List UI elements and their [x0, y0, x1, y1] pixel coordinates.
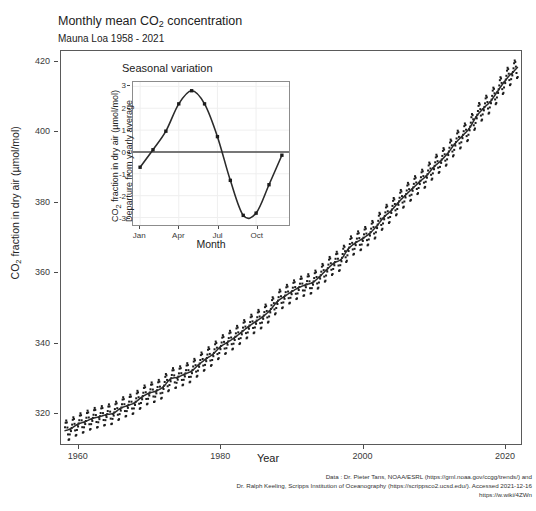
main-x-tick-mark [363, 445, 364, 449]
main-y-tick-label: 420 [35, 56, 50, 66]
main-y-tick-label: 360 [35, 267, 50, 277]
inset-y-tick-label: 3 [122, 81, 126, 90]
page-subtitle: Mauna Loa 1958 - 2021 [58, 33, 164, 44]
main-y-tick-label: 320 [35, 408, 50, 418]
footer-line-2: Dr. Ralph Keeling, Scripps Institution o… [0, 482, 532, 491]
page-title-suffix: concentration [164, 14, 243, 28]
main-y-tick-label: 380 [35, 197, 50, 207]
inset-title: Seasonal variation [122, 62, 213, 74]
inset-y-axis-title-line2: Departure from yearly average [124, 100, 134, 222]
page-title-prefix: Monthly mean CO [58, 14, 159, 28]
main-x-tick-mark [78, 445, 79, 449]
main-y-tick-mark [54, 272, 58, 273]
chart-page: Monthly mean CO2 concentration Mauna Loa… [0, 0, 536, 511]
inset-line-plot [133, 82, 289, 225]
seasonal-variation-inset: Seasonal variation -3-2-10123 JanAprJulO… [100, 62, 300, 247]
inset-y-axis-title-line1: CO2 fraction in dry air (µmol/mol) [110, 90, 123, 222]
main-y-tick-label: 400 [35, 126, 50, 136]
inset-x-tick-mark [218, 226, 219, 229]
main-x-tick-mark [220, 445, 221, 449]
inset-y-tick-mark [127, 85, 130, 86]
inset-x-tick-mark [178, 226, 179, 229]
page-title: Monthly mean CO2 concentration [58, 14, 242, 29]
inset-x-tick-mark [257, 226, 258, 229]
inset-plot-panel [132, 81, 290, 226]
main-y-tick-mark [54, 343, 58, 344]
footer-attribution: Data : Dr. Pieter Tans, NOAA/ESRL (https… [0, 473, 532, 500]
main-y-tick-mark [54, 61, 58, 62]
footer-line-3: https://w.wiki/4ZWn [0, 491, 532, 500]
main-y-tick-mark [54, 202, 58, 203]
main-x-tick-mark [505, 445, 506, 449]
main-y-tick-label: 340 [35, 338, 50, 348]
inset-x-tick-mark [139, 226, 140, 229]
inset-x-axis-title: Month [132, 238, 290, 250]
main-y-tick-mark [54, 131, 58, 132]
footer-line-1: Data : Dr. Pieter Tans, NOAA/ESRL (https… [0, 473, 532, 482]
main-y-tick-mark [54, 413, 58, 414]
main-y-axis-title: CO2 fraction in dry air (µmol/mol) [9, 123, 23, 283]
main-x-axis-title: Year [0, 452, 536, 464]
